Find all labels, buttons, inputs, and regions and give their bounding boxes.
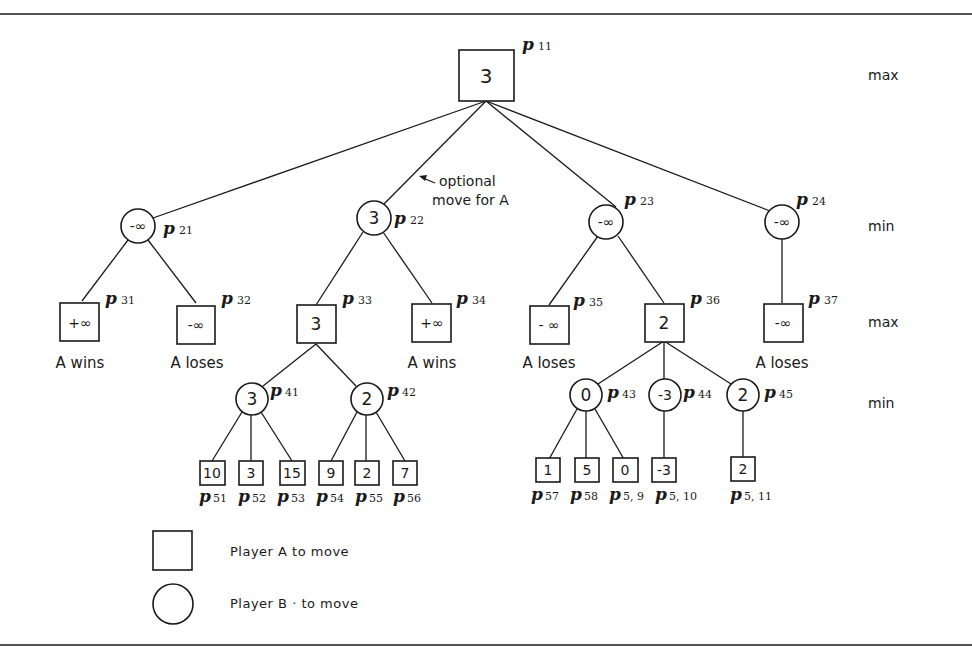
node-label: p11 <box>522 34 552 54</box>
node-value: -3 <box>657 462 671 478</box>
node-p56: 7 p56 <box>393 461 421 506</box>
node-p58: 5 p58 <box>570 458 599 504</box>
node-p34: +∞ p34 A wins <box>408 288 486 372</box>
node-p31: +∞ p31 A wins <box>56 288 135 372</box>
node-label: p35 <box>573 290 603 310</box>
outcome-label: A wins <box>56 354 105 372</box>
node-label: p36 <box>690 288 720 308</box>
node-value: 10 <box>203 465 221 481</box>
arrow-head-icon <box>419 175 427 181</box>
node-label: p52 <box>238 486 266 506</box>
node-label: p54 <box>316 486 344 506</box>
node-p33: 3 p33 <box>297 288 372 343</box>
node-p59: 0 p5, 9 <box>609 458 644 504</box>
node-p510: -3 p5, 10 <box>652 458 697 504</box>
outcome-label: A loses <box>755 354 808 372</box>
node-value: 2 <box>363 465 372 481</box>
node-label: p21 <box>163 218 193 238</box>
node-label: p32 <box>221 288 251 308</box>
node-value: -∞ <box>775 315 792 331</box>
node-label: p37 <box>808 288 838 308</box>
optional-move-annotation: optional move for A <box>419 173 509 208</box>
node-label: p58 <box>570 484 598 504</box>
game-tree-diagram: optional move for A max min max min 3 p1… <box>0 0 972 657</box>
node-label: p57 <box>531 484 559 504</box>
node-label: p23 <box>624 189 654 209</box>
node-p52: 3 p52 <box>238 461 266 506</box>
node-p57: 1 p57 <box>531 458 560 504</box>
node-value: 15 <box>283 465 301 481</box>
node-value: -∞ <box>188 317 205 333</box>
node-label: p55 <box>355 486 383 506</box>
node-value: - ∞ <box>538 317 559 333</box>
node-label: p43 <box>607 382 636 402</box>
node-label: p44 <box>683 382 712 402</box>
legend-player-b: Player B · to move <box>230 596 358 611</box>
node-value: 2 <box>739 461 748 477</box>
node-value: 0 <box>621 462 630 478</box>
node-p53: 15 p53 <box>277 461 305 506</box>
node-value: -∞ <box>130 218 147 234</box>
outcome-label: A loses <box>170 354 223 372</box>
legend-circle-icon <box>153 584 193 624</box>
node-p24: -∞ p24 <box>765 189 826 239</box>
node-label: p42 <box>387 380 416 400</box>
level-label-max-2: max <box>868 314 899 330</box>
level-labels: max min max min <box>868 67 899 411</box>
node-value: -3 <box>658 387 672 403</box>
node-value: 2 <box>738 385 749 405</box>
node-label: p51 <box>199 486 227 506</box>
node-value: 3 <box>247 465 256 481</box>
outcome-label: A wins <box>408 354 457 372</box>
node-value: 0 <box>581 385 592 405</box>
level-label-min-1: min <box>868 218 894 234</box>
node-label: p5, 10 <box>655 484 697 504</box>
node-p32: -∞ p32 A loses <box>170 288 251 372</box>
node-label: p56 <box>393 486 421 506</box>
node-label: p24 <box>796 189 826 209</box>
node-p21: -∞ p21 <box>121 209 193 243</box>
node-value: -∞ <box>774 214 791 230</box>
node-value: 3 <box>247 389 258 409</box>
node-value: +∞ <box>420 315 443 331</box>
legend-player-a: Player A to move <box>230 544 349 559</box>
node-value: +∞ <box>68 315 91 331</box>
node-p23: -∞ p23 <box>589 189 654 239</box>
node-p55: 2 p55 <box>355 461 383 506</box>
annotation-line-2: move for A <box>432 192 509 208</box>
node-label: p33 <box>342 288 372 308</box>
node-value: 1 <box>544 462 553 478</box>
node-value: 7 <box>401 465 410 481</box>
node-label: p5, 9 <box>609 484 644 504</box>
node-p511: 2 p5, 11 <box>730 457 772 504</box>
node-value: 3 <box>311 314 322 334</box>
node-p41: 3 p41 <box>236 380 299 415</box>
legend: Player A to move Player B · to move <box>153 531 358 624</box>
node-label: p34 <box>456 288 486 308</box>
node-label: p5, 11 <box>730 484 772 504</box>
node-value: 2 <box>659 313 670 333</box>
level-label-max-1: max <box>868 67 899 83</box>
node-value: 9 <box>327 465 336 481</box>
node-p42: 2 p42 <box>351 380 416 415</box>
node-p44: -3 p44 <box>649 379 712 411</box>
node-value: 5 <box>583 462 592 478</box>
tree-edges <box>82 101 782 461</box>
node-p43: 0 p43 <box>570 379 636 411</box>
node-p22: 3 p22 <box>357 201 424 235</box>
node-p11: 3 p11 <box>459 34 552 101</box>
node-value: -∞ <box>598 214 615 230</box>
legend-square-icon <box>153 531 192 570</box>
node-label: p45 <box>764 382 793 402</box>
node-value: 2 <box>362 389 373 409</box>
annotation-line-1: optional <box>439 173 496 189</box>
node-value: 3 <box>369 208 380 228</box>
outcome-label: A loses <box>522 354 575 372</box>
level-label-min-2: min <box>868 395 894 411</box>
node-p51: 10 p51 <box>199 461 227 506</box>
node-p54: 9 p54 <box>316 461 344 506</box>
node-value: 3 <box>480 64 493 88</box>
node-p35: - ∞ p35 A loses <box>522 290 603 372</box>
node-label: p41 <box>270 380 299 400</box>
node-label: p53 <box>277 486 305 506</box>
